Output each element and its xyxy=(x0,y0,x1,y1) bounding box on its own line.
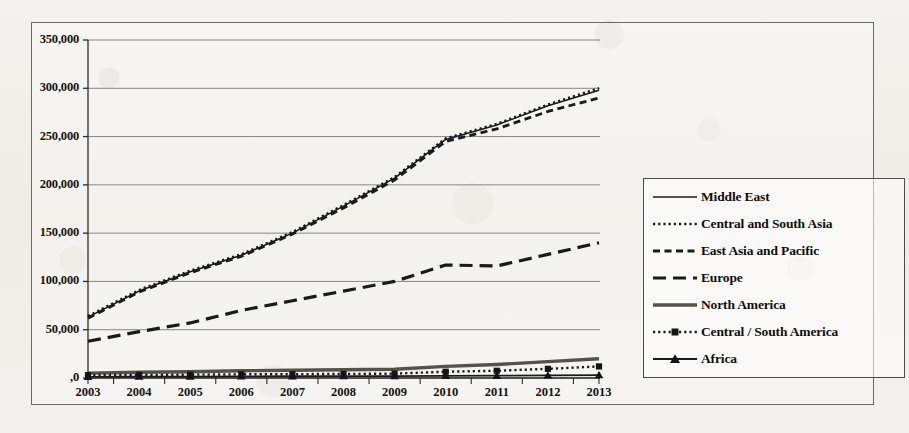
legend-item-label: North America xyxy=(701,297,786,313)
legend-item-label: East Asia and Pacific xyxy=(701,243,819,259)
x-axis-tick-label: 2009 xyxy=(369,385,421,400)
x-axis-tick-label: 2004 xyxy=(113,385,165,400)
legend-line-style-icon xyxy=(652,352,698,366)
y-axis-tick-label: 50,000 xyxy=(32,322,79,337)
series-line xyxy=(88,243,599,341)
y-axis-tick-label: ,0 xyxy=(32,370,79,385)
legend-item-europe[interactable]: Europe xyxy=(652,266,743,290)
legend-line-style-icon xyxy=(652,325,698,339)
legend-item-central-south-america[interactable]: Central / South America xyxy=(652,320,838,344)
y-axis-tick-label: 200,000 xyxy=(32,177,79,192)
legend-line-style-icon xyxy=(652,271,698,285)
x-axis-tick-label: 2003 xyxy=(62,385,114,400)
legend-item-label: Middle East xyxy=(701,189,769,205)
y-axis-tick-label: 250,000 xyxy=(32,129,79,144)
legend-item-africa[interactable]: Africa xyxy=(652,347,737,371)
chart-legend: Middle EastCentral and South AsiaEast As… xyxy=(643,178,905,378)
y-axis-tick-label: 350,000 xyxy=(32,32,79,47)
legend-line-style-icon xyxy=(652,244,698,258)
legend-item-label: Europe xyxy=(701,270,743,286)
legend-item-label: Central and South Asia xyxy=(701,216,832,232)
legend-line-style-icon xyxy=(652,298,698,312)
legend-item-middle-east[interactable]: Middle East xyxy=(652,185,769,209)
legend-item-north-america[interactable]: North America xyxy=(652,293,786,317)
y-axis-tick-label: 100,000 xyxy=(32,273,79,288)
x-axis-tick-label: 2007 xyxy=(266,385,318,400)
x-axis-tick-label: 2010 xyxy=(420,385,472,400)
legend-item-east-asia-and-pacific[interactable]: East Asia and Pacific xyxy=(652,239,819,263)
y-axis-tick-label: 300,000 xyxy=(32,80,79,95)
x-axis-tick-label: 2006 xyxy=(215,385,267,400)
x-axis-tick-label: 2012 xyxy=(522,385,574,400)
legend-item-central-and-south-asia[interactable]: Central and South Asia xyxy=(652,212,832,236)
x-axis-tick-label: 2008 xyxy=(318,385,370,400)
legend-item-label: Africa xyxy=(701,351,737,367)
legend-line-style-icon xyxy=(652,190,698,204)
series-line xyxy=(88,98,599,318)
x-axis-tick-label: 2011 xyxy=(471,385,523,400)
legend-line-style-icon xyxy=(652,217,698,231)
chart-frame: ,050,000100,000150,000200,000250,000300,… xyxy=(31,22,874,405)
x-axis-tick-label: 2005 xyxy=(164,385,216,400)
data-series-layer xyxy=(84,88,604,380)
legend-item-label: Central / South America xyxy=(701,324,838,340)
x-axis-tick-label: 2013 xyxy=(573,385,625,400)
y-axis-tick-label: 150,000 xyxy=(32,225,79,240)
